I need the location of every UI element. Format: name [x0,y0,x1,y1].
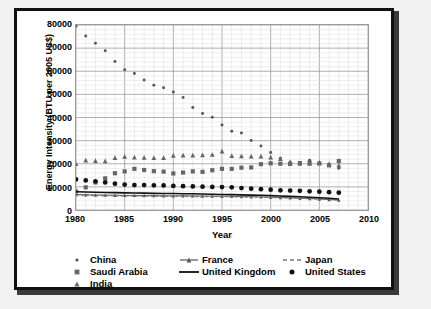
legend-item[interactable]: United Kingdom [177,266,275,277]
legend-marker-line-triangle-icon [177,255,201,265]
legend-label: United Kingdom [202,266,275,277]
legend-label: Saudi Arabia [90,266,148,277]
legend-label: China [90,254,116,265]
legend-item[interactable]: China [65,254,116,265]
x-tick-label: 2000 [251,214,291,224]
plot-area-wrapper: Energy Intensity (BTU per 2005 US$) 8000… [17,11,391,251]
legend-item[interactable]: Saudi Arabia [65,266,148,277]
legend-marker-square-icon [65,267,89,277]
y-axis-tick-labels: 8000070000600005000040000300002000010000… [17,24,72,211]
chart-legend: ChinaFranceJapanSaudi ArabiaUnited Kingd… [65,254,375,288]
legend-marker-circle-icon [280,267,304,277]
y-tick-label: 80000 [20,20,72,29]
legend-label: India [90,278,112,289]
legend-item[interactable]: United States [280,266,366,277]
series-china [76,25,340,170]
legend-label: Japan [305,254,332,265]
x-tick-label: 2010 [349,214,389,224]
energy-intensity-chart: Energy Intensity (BTU per 2005 US$) 8000… [17,11,391,287]
x-tick-label: 1995 [202,214,242,224]
series-india [76,149,341,168]
legend-label: United States [305,266,366,277]
x-axis-title: Year [75,229,369,240]
y-tick-label: 20000 [20,160,72,169]
legend-item[interactable]: Japan [280,254,332,265]
y-tick-label: 40000 [20,114,72,123]
legend-marker-dashed-line-icon [280,255,304,265]
y-tick-label: 30000 [20,137,72,146]
data-series-layer [76,25,368,210]
x-tick-label: 1980 [55,214,95,224]
y-tick-label: 10000 [20,184,72,193]
chart-frame: Energy Intensity (BTU per 2005 US$) 8000… [14,8,394,290]
legend-item[interactable]: France [177,254,233,265]
legend-label: France [202,254,233,265]
x-tick-label: 1985 [104,214,144,224]
x-tick-label: 1990 [153,214,193,224]
x-tick-label: 2005 [300,214,340,224]
legend-item[interactable]: India [65,278,112,289]
legend-marker-dot-small-icon [65,255,89,265]
y-tick-label: 50000 [20,90,72,99]
y-tick-label: 70000 [20,43,72,52]
plot-area [75,24,369,211]
legend-marker-solid-line-icon [177,267,201,277]
x-axis-tick-labels: 1980198519901995200020052010 [75,214,369,228]
legend-marker-triangle-icon [65,279,89,289]
y-tick-label: 60000 [20,67,72,76]
